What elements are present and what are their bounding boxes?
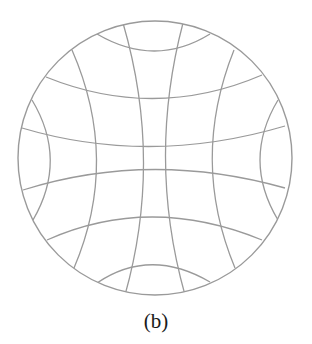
horizontal-curve-lower bbox=[47, 217, 262, 240]
vertical-curve-center-right bbox=[165, 23, 185, 295]
grid-lines bbox=[22, 23, 285, 295]
outer-circle bbox=[18, 21, 292, 295]
horizontal-curve-mid-lower bbox=[23, 169, 285, 190]
vertical-curve-center-left bbox=[123, 23, 144, 295]
vertical-curve-right-cap bbox=[260, 100, 278, 220]
horizontal-curve-top-cap bbox=[97, 34, 210, 51]
vertical-curve-right-2 bbox=[212, 50, 235, 268]
vertical-curve-left-cap bbox=[32, 100, 50, 220]
distorted-grid-figure bbox=[0, 0, 312, 344]
figure-caption: (b) bbox=[0, 309, 312, 334]
vertical-curve-left-2 bbox=[72, 50, 97, 268]
horizontal-curve-mid-upper bbox=[22, 126, 285, 147]
horizontal-curve-upper bbox=[46, 75, 262, 99]
horizontal-curve-bottom-cap bbox=[97, 265, 210, 283]
